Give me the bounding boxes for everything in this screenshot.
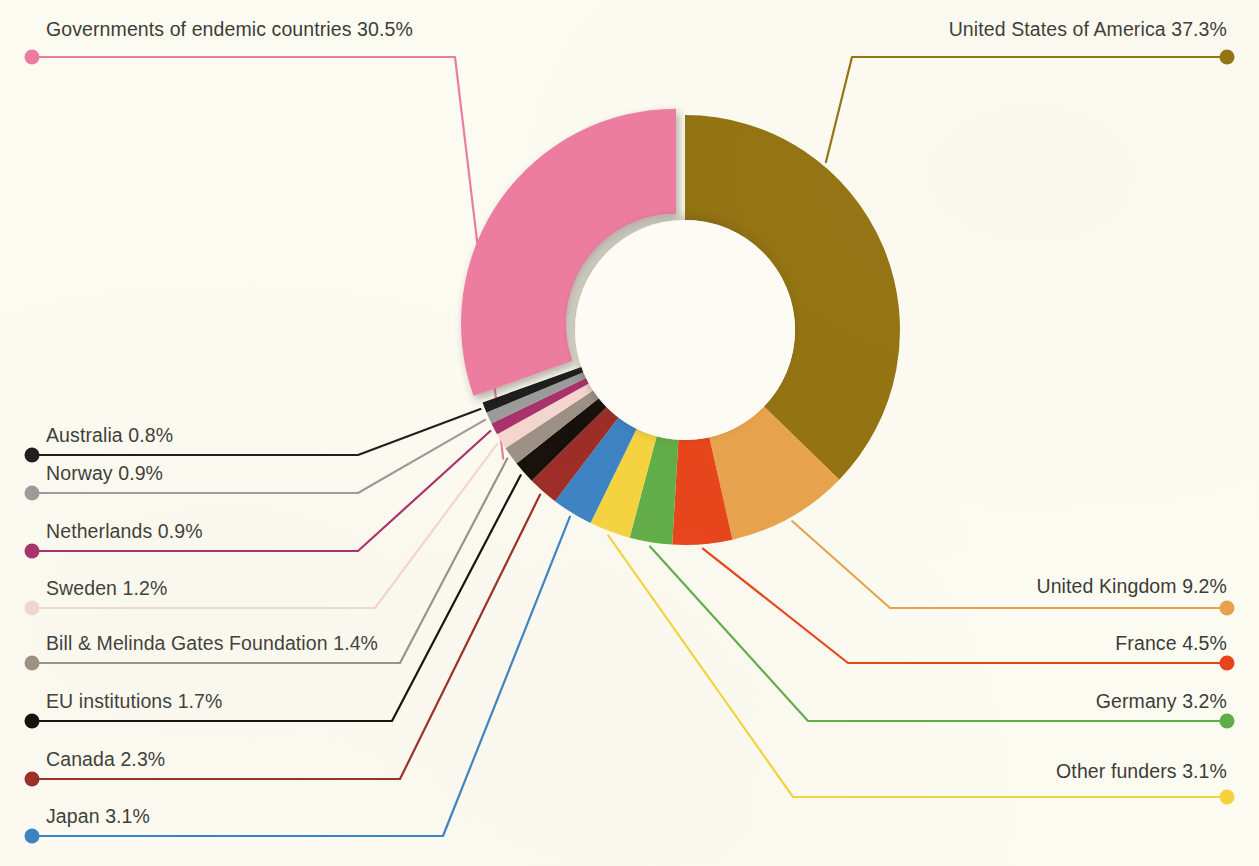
legend-dot-canada[interactable] (25, 772, 40, 787)
donut-chart-figure: Governments of endemic countries 30.5% U… (0, 0, 1259, 866)
legend-dot-france[interactable] (1220, 656, 1235, 671)
legend-dot-other-funders[interactable] (1220, 790, 1235, 805)
slice-label-uk: United Kingdom 9.2% (1036, 575, 1227, 598)
slice-label-usa: United States of America 37.3% (949, 18, 1227, 41)
slice-label-eu-institutions: EU institutions 1.7% (46, 690, 223, 713)
legend-dot-netherlands[interactable] (25, 544, 40, 559)
slice-label-gates-foundation: Bill & Melinda Gates Foundation 1.4% (46, 632, 378, 655)
slice-label-sweden: Sweden 1.2% (46, 577, 167, 600)
donut-slices-group (461, 109, 900, 545)
slice-label-france: France 4.5% (1115, 632, 1227, 655)
slice-label-norway: Norway 0.9% (46, 462, 163, 485)
slice-label-canada: Canada 2.3% (46, 748, 165, 771)
slice-label-netherlands: Netherlands 0.9% (46, 520, 203, 543)
legend-dot-norway[interactable] (25, 486, 40, 501)
legend-dot-germany[interactable] (1220, 714, 1235, 729)
leader-line-japan (32, 517, 570, 836)
legend-dot-endemic-governments[interactable] (25, 50, 40, 65)
slice-label-other-funders: Other funders 3.1% (1056, 760, 1227, 783)
legend-dot-australia[interactable] (25, 448, 40, 463)
slice-label-endemic-governments: Governments of endemic countries 30.5% (46, 18, 413, 41)
slice-label-germany: Germany 3.2% (1096, 690, 1227, 713)
legend-dot-japan[interactable] (25, 829, 40, 844)
donut-center-hole (575, 220, 795, 440)
slice-label-japan: Japan 3.1% (46, 805, 150, 828)
legend-dot-uk[interactable] (1220, 601, 1235, 616)
leader-line-usa (826, 57, 1227, 162)
legend-dot-eu-institutions[interactable] (25, 714, 40, 729)
donut-chart-canvas (0, 0, 1259, 866)
legend-dot-usa[interactable] (1220, 50, 1235, 65)
legend-dot-gates-foundation[interactable] (25, 656, 40, 671)
legend-dot-sweden[interactable] (25, 601, 40, 616)
slice-label-australia: Australia 0.8% (46, 424, 173, 447)
leader-line-endemic-governments (32, 57, 503, 459)
